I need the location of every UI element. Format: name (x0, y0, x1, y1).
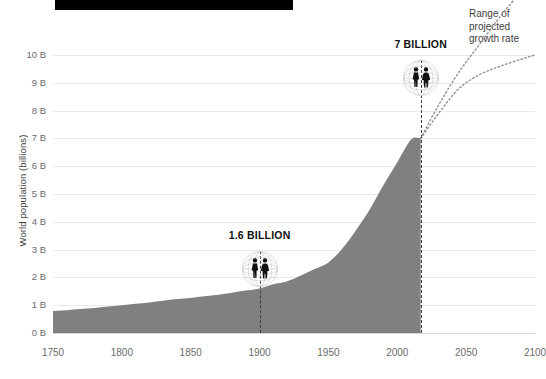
y-axis-tick-label: 8 B (6, 105, 46, 116)
y-axis-tick-label: 4 B (6, 216, 46, 227)
y-axis-tick-label: 6 B (6, 160, 46, 171)
projection-note-line2: projected (469, 21, 545, 34)
plot-area: 0 B1 B2 B3 B4 B5 B6 B7 B8 B9 B10 B 17501… (53, 55, 535, 333)
x-axis-tick-label: 1950 (317, 347, 339, 358)
globe-people-icon (399, 56, 443, 104)
redacted-title-bar (55, 0, 293, 10)
y-axis-tick-label: 10 B (6, 49, 46, 60)
milestone-2-label: 7 BILLION (394, 38, 447, 50)
x-axis-tick-label: 2100 (524, 347, 546, 358)
y-axis-tick-label: 7 B (6, 132, 46, 143)
x-axis-tick-label: 1900 (248, 347, 270, 358)
y-axis-tick-label: 2 B (6, 271, 46, 282)
y-axis-tick-label: 1 B (6, 299, 46, 310)
globe-people-icon (238, 247, 282, 295)
projection-note-line1: Range of (469, 8, 545, 21)
y-axis-tick-label: 3 B (6, 244, 46, 255)
projection-range-note: Range of projected growth rate (469, 8, 545, 46)
y-axis-tick-label: 0 B (6, 327, 46, 338)
population-chart: World population (billions) Range of pro… (0, 0, 546, 379)
x-axis-tick-label: 1750 (42, 347, 64, 358)
series-svg (53, 55, 535, 333)
milestone-1-label: 1.6 BILLION (229, 229, 291, 241)
x-axis-tick-label: 1850 (180, 347, 202, 358)
y-axis-tick-label: 9 B (6, 77, 46, 88)
gridline (53, 333, 535, 334)
y-axis-tick-label: 5 B (6, 188, 46, 199)
x-axis-tick-label: 1800 (111, 347, 133, 358)
x-axis-tick-label: 2050 (455, 347, 477, 358)
x-axis-tick-label: 2000 (386, 347, 408, 358)
